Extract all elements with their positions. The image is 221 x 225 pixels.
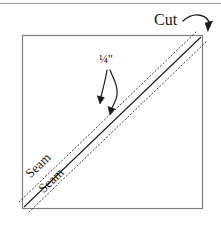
diagram-canvas: Cut ¼" Seam Seam: [0, 0, 221, 225]
quilting-diagram-graphic: [0, 0, 221, 225]
cut-arrow-icon: [183, 15, 213, 31]
cut-label: Cut: [154, 12, 177, 28]
quarter-inch-measurement-label: ¼": [99, 53, 113, 65]
